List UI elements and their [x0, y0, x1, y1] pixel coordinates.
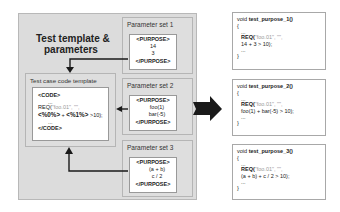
function-signature: void test_purpose_1(): [237, 16, 321, 23]
arrowhead-left-icon: [116, 106, 122, 112]
generated-test-2: void test_purpose_2() { ... REQ("foo.01"…: [232, 79, 326, 136]
generated-test-1: void test_purpose_1() { ... REQ("foo.01"…: [232, 12, 326, 70]
close-brace: }: [237, 53, 321, 60]
req-call: REQ(: [241, 34, 255, 40]
generated-test-3: void test_purpose_3() { ... REQ("foo.01"…: [232, 144, 326, 200]
void-keyword: void: [237, 148, 249, 154]
arrowhead-up-icon: [65, 147, 73, 154]
function-signature: void test_purpose_2(): [237, 83, 321, 90]
close-brace: }: [237, 185, 321, 192]
req-line: REQ("foo.01", "",: [237, 166, 321, 173]
void-keyword: void: [237, 16, 249, 22]
expression-line: (a + b) + c / 2 > 10);: [237, 173, 321, 180]
close-brace: }: [237, 120, 321, 127]
big-right-arrow-icon: [193, 96, 222, 121]
void-keyword: void: [237, 83, 249, 89]
expression-line: foo(1) + bar(-5) > 10);: [237, 108, 321, 115]
function-name: test_purpose_2(): [249, 83, 293, 89]
function-name: test_purpose_3(): [249, 148, 293, 154]
req-args: "foo.01", "",: [255, 101, 283, 107]
req-line: REQ("foo.01", "",: [237, 34, 321, 41]
expression-line: 14 + 3 > 10);: [237, 41, 321, 48]
req-call: REQ(: [241, 166, 255, 172]
function-signature: void test_purpose_3(): [237, 148, 321, 155]
req-args: "foo.01", "",: [255, 166, 283, 172]
arrow-set3-to-template: [69, 153, 128, 171]
req-args: "foo.01", "",: [255, 34, 283, 40]
arrow-set1-to-template: [70, 59, 128, 68]
req-call: REQ(: [241, 101, 255, 107]
open-brace: {: [237, 90, 321, 97]
arrowhead-down-icon: [66, 67, 74, 73]
open-brace: {: [237, 155, 321, 162]
open-brace: {: [237, 23, 321, 30]
req-line: REQ("foo.01", "",: [237, 101, 321, 108]
function-name: test_purpose_1(): [249, 16, 293, 22]
